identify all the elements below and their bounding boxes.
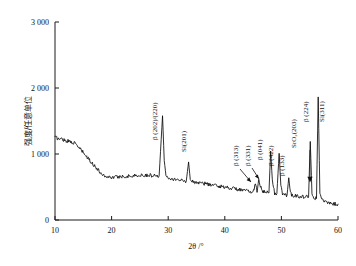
- peak-label-beta-224: β (224): [302, 101, 310, 122]
- y-tick-label: 1 000: [31, 150, 49, 159]
- y-tick-label: 0: [45, 216, 49, 225]
- x-tick-label: 40: [221, 226, 229, 235]
- peak-label-beta-331: β (331): [244, 145, 252, 166]
- peak-label-si-311: Si(311): [318, 101, 326, 122]
- y-axis-title: 强度/任意单位: [23, 96, 33, 147]
- x-tick-label: 20: [108, 226, 116, 235]
- peak-label-si-201: Si(201): [180, 130, 188, 152]
- xrd-figure: 01 0002 0003 000 102030405060 β (202)/(2…: [0, 0, 356, 266]
- x-tick-label: 10: [51, 226, 59, 235]
- peak-label-beta-202-220: β (202)/(220): [151, 102, 159, 140]
- chart-canvas: 01 0002 0003 000 102030405060 β (202)/(2…: [0, 0, 356, 266]
- peak-label-beta-313: β (313): [232, 145, 240, 166]
- x-axis-title: 2θ /°: [188, 242, 203, 251]
- peak-label-beta-422: β (422): [267, 145, 275, 166]
- x-tick-label: 50: [277, 226, 285, 235]
- peak-label-sro2-203: SrO₂(203): [290, 118, 298, 148]
- x-tick-label: 30: [164, 226, 172, 235]
- x-tick-label: 60: [334, 226, 342, 235]
- peak-label-beta-041: β (041): [256, 139, 264, 160]
- peak-label-beta-133: β (133): [278, 155, 286, 176]
- y-tick-label: 3 000: [31, 18, 49, 27]
- y-tick-label: 2 000: [31, 84, 49, 93]
